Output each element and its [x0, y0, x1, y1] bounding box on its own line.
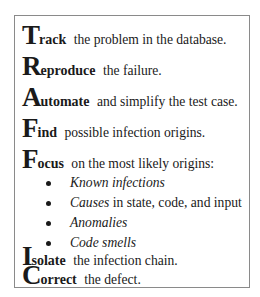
step-letter: A	[22, 82, 41, 112]
bullet-italic: Causes	[70, 195, 109, 210]
bullet-italic: Anomalies	[70, 215, 127, 230]
bullet-icon	[46, 221, 51, 226]
step-text: the failure.	[103, 63, 162, 78]
step-text: and simplify the test case.	[97, 94, 238, 109]
step-automate: Automate and simplify the test case.	[22, 84, 238, 111]
step-correct: Correct the defect.	[22, 262, 141, 289]
step-keyword: rack	[39, 32, 66, 47]
step-letter: C	[22, 260, 41, 290]
step-letter: F	[22, 113, 38, 143]
step-letter: F	[22, 144, 38, 174]
step-keyword: utomate	[41, 94, 90, 109]
step-find: Find possible infection origins.	[22, 115, 205, 142]
bullet-icon	[46, 201, 51, 206]
step-track: Track the problem in the database.	[22, 22, 227, 49]
bullet-text: in state, code, and input	[109, 195, 242, 210]
step-keyword: ocus	[38, 156, 64, 171]
step-keyword: orrect	[41, 272, 77, 287]
step-letter: T	[22, 20, 39, 50]
step-keyword: ind	[38, 125, 57, 140]
step-text: on the most likely origins:	[71, 156, 214, 171]
step-focus: Focus on the most likely origins:	[22, 146, 214, 173]
bullet-italic: Known infections	[70, 175, 165, 190]
step-text: the problem in the database.	[74, 32, 227, 47]
step-text: the defect.	[84, 272, 141, 287]
step-text: possible infection origins.	[64, 125, 205, 140]
step-letter: R	[22, 51, 41, 81]
bullet-icon	[46, 181, 51, 186]
step-keyword: eproduce	[41, 63, 96, 78]
step-reproduce: Reproduce the failure.	[22, 53, 162, 80]
